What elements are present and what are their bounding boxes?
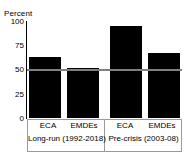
reference-line-50 — [27, 69, 182, 71]
x-group-label-pre-crisis: Pre-crisis (2003-08) — [105, 134, 182, 143]
bar-chart: Percent 100 75 50 25 0 ECA EMDEs ECA EMD… — [0, 0, 186, 158]
bar-emdes-long-run — [67, 68, 99, 118]
x-category-label: EMDEs — [142, 121, 182, 130]
bar-eca-pre-crisis — [110, 26, 142, 118]
y-tick-label: 50 — [2, 65, 24, 74]
x-axis-label-box: ECA EMDEs ECA EMDEs Long-run (1992-2018)… — [27, 119, 182, 152]
x-category-label: EMDEs — [64, 121, 104, 130]
y-tick-label: 100 — [2, 17, 24, 26]
y-tick-label: 0 — [2, 114, 24, 123]
bar-eca-long-run — [29, 57, 61, 118]
y-tick-label: 75 — [2, 41, 24, 50]
x-category-label: ECA — [30, 121, 66, 130]
cut-off-title-fragment — [18, 0, 168, 4]
plot-area — [27, 21, 182, 118]
y-tick-label: 25 — [2, 90, 24, 99]
x-group-label-long-run: Long-run (1992-2018) — [28, 134, 105, 143]
x-category-label: ECA — [107, 121, 143, 130]
bar-emdes-pre-crisis — [148, 53, 180, 118]
y-axis-tick-labels: 100 75 50 25 0 — [0, 0, 24, 158]
